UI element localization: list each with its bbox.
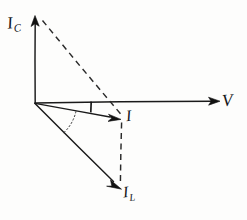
construction-line-ic-to-i bbox=[43, 21, 123, 116]
label-il-subscript: L bbox=[129, 191, 136, 203]
label-inductive-current: IL bbox=[122, 183, 135, 200]
construction-line-i-to-il bbox=[120, 123, 121, 184]
label-ic-subscript: C bbox=[13, 21, 22, 34]
label-v-symbol: V bbox=[221, 91, 233, 111]
vector-i bbox=[35, 103, 121, 121]
vector-v-shaft bbox=[35, 101, 212, 103]
vector-v bbox=[35, 97, 220, 105]
vector-i-arrowhead bbox=[108, 114, 121, 121]
vector-ic bbox=[31, 16, 39, 104]
phase-angle-arc bbox=[64, 111, 77, 133]
label-capacitive-current: IC bbox=[6, 13, 21, 31]
phasor-diagram-figure: IC V I IL bbox=[0, 0, 247, 220]
label-voltage: V bbox=[221, 92, 233, 110]
